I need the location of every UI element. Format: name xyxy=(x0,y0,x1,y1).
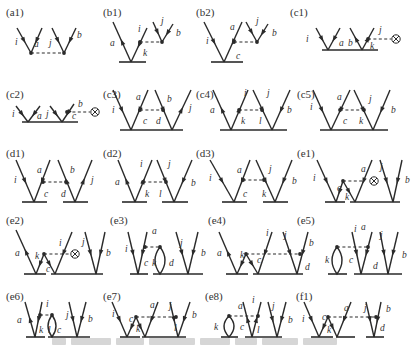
panel-label: (e2) xyxy=(6,214,24,227)
arrow-icon xyxy=(121,39,126,46)
arrow-icon xyxy=(280,316,284,323)
arrow-icon xyxy=(254,316,258,323)
panel-label: (c4) xyxy=(196,88,214,101)
index-label: a xyxy=(361,164,366,174)
arrow-icon xyxy=(69,37,74,44)
index-label: k xyxy=(345,192,350,202)
index-label: k xyxy=(143,48,148,58)
diagram-c2: (c2)iajbc xyxy=(6,88,99,122)
index-label: j xyxy=(159,16,164,26)
arrow-icon xyxy=(62,249,66,256)
index-label: i xyxy=(14,175,17,185)
index-label: k xyxy=(325,255,330,265)
index-label: i xyxy=(140,159,143,169)
arrow-icon xyxy=(332,35,337,42)
diagram-b1: (b1)aikjb xyxy=(103,6,181,62)
index-label: i xyxy=(244,88,247,98)
vertex-dot xyxy=(138,108,142,112)
index-label: a xyxy=(150,300,155,310)
index-label: c xyxy=(236,51,241,61)
vertex-dot xyxy=(141,180,145,184)
panel-label: (c5) xyxy=(297,88,315,101)
index-label: a xyxy=(230,22,235,32)
arrow-icon xyxy=(287,249,291,256)
index-label: l xyxy=(159,189,162,199)
vertex-dot xyxy=(244,252,248,256)
panel-label: (e3) xyxy=(110,214,128,227)
index-label: c xyxy=(343,116,348,126)
arrow-icon xyxy=(270,316,274,323)
index-label: b xyxy=(77,30,82,40)
arrow-icon xyxy=(362,177,366,184)
index-label: b xyxy=(78,99,83,109)
panel-label: (e8) xyxy=(205,290,223,303)
panel-label: (d1) xyxy=(6,147,25,160)
index-label: a xyxy=(217,248,222,258)
arrow-icon xyxy=(130,323,135,330)
diagram-e6: (e6)aiklcjb xyxy=(6,290,93,337)
index-label: b xyxy=(106,248,111,258)
vertex-dot xyxy=(42,252,46,256)
index-label: d xyxy=(61,189,66,199)
index-label: d xyxy=(373,261,378,271)
panel-label: (c3) xyxy=(103,88,121,101)
index-label: a xyxy=(37,165,42,175)
diagram-e3: (e3)iackdjb xyxy=(110,214,206,274)
diagram-d2: (d2)aikjlb xyxy=(103,147,196,202)
diagram-a1: (a1)iajb xyxy=(6,6,82,55)
vertex-dot xyxy=(164,180,168,184)
arrow-icon xyxy=(119,106,124,113)
diagram-e1: (e1)ickajb xyxy=(297,147,410,202)
index-label: a xyxy=(337,92,342,102)
index-label: i xyxy=(209,173,212,183)
figure-caption xyxy=(52,338,337,346)
index-label: c xyxy=(240,322,245,332)
vertex-dot xyxy=(241,178,245,182)
index-label: a xyxy=(344,303,349,313)
index-label: c xyxy=(144,258,149,268)
vertex-dot xyxy=(64,180,68,184)
index-label: b xyxy=(348,38,353,48)
diagram-c5: (c5)iacjkb xyxy=(297,88,396,130)
arrow-icon xyxy=(392,249,396,256)
vertex-dot xyxy=(29,51,33,55)
diagram-c4: (c4)aikjlb xyxy=(196,88,292,130)
index-label: j xyxy=(166,159,171,169)
index-label: i xyxy=(15,37,18,47)
vertex-dot xyxy=(160,40,164,44)
index-label: d xyxy=(169,258,174,268)
arrow-icon xyxy=(248,28,253,35)
panel-label: (a1) xyxy=(6,6,24,19)
index-label: i xyxy=(302,314,305,324)
index-label: i xyxy=(59,238,62,248)
vertex-dot xyxy=(232,40,236,44)
panel-label: (c2) xyxy=(6,88,24,101)
index-label: i xyxy=(266,228,269,238)
index-label: l xyxy=(257,325,260,335)
vertex-dot xyxy=(237,108,241,112)
panel-label: (c1) xyxy=(290,6,308,19)
index-label: a xyxy=(37,111,42,121)
index-label: a xyxy=(17,315,22,325)
panel-label: (e7) xyxy=(103,290,121,303)
index-label: j xyxy=(64,310,69,320)
index-label: i xyxy=(313,173,316,183)
index-label: j xyxy=(265,88,270,98)
arrow-icon xyxy=(354,36,359,43)
vertex-dot xyxy=(298,252,302,256)
index-label: i xyxy=(12,109,15,119)
index-label: k xyxy=(39,325,44,335)
vertex-dot xyxy=(65,110,69,114)
index-label: c xyxy=(349,255,354,265)
index-label: a xyxy=(339,38,344,48)
panel-label: (d2) xyxy=(103,147,122,160)
arrow-icon xyxy=(246,316,250,323)
index-label: i xyxy=(125,244,128,254)
arrow-icon xyxy=(383,177,387,184)
diagram-b2: (b2)iacjb xyxy=(196,6,277,62)
arrow-icon xyxy=(55,37,60,44)
index-label: d xyxy=(305,262,310,272)
arrow-icon xyxy=(80,178,84,185)
index-label: l xyxy=(48,325,51,335)
vertex-dot xyxy=(227,314,231,318)
